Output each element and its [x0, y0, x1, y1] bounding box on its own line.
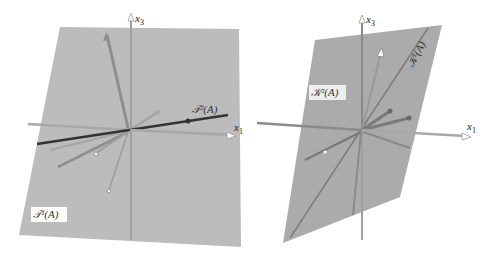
left-3d-diagram: x3 x1 𝒯²(A) 𝒯¹(A) — [0, 0, 245, 258]
line-T2-point — [186, 119, 191, 124]
plane-K2-label: 𝒦²(A) — [311, 86, 339, 99]
x1-arrowhead — [462, 133, 471, 140]
x3-arrowhead — [359, 15, 365, 23]
x3-axis-label: x3 — [134, 12, 144, 27]
vector-tip — [388, 109, 393, 114]
x3-arrowhead — [128, 13, 134, 21]
vector-tip — [156, 110, 160, 114]
vector-tip-2 — [407, 116, 412, 121]
left-diagram-svg: x3 x1 𝒯²(A) 𝒯¹(A) — [0, 0, 245, 258]
plane-T1-label: 𝒯¹(A) — [33, 208, 59, 221]
right-3d-diagram: x3 x1 𝒦²(A) 𝒦¹(A) — [245, 0, 490, 258]
x3-axis-label: x3 — [365, 13, 375, 28]
vector-tip-3 — [107, 189, 111, 193]
vector-tip-2 — [94, 152, 98, 156]
vector-tip-3 — [324, 151, 327, 154]
right-diagram-svg: x3 x1 𝒦²(A) 𝒦¹(A) — [245, 0, 490, 258]
x1-axis-label: x1 — [466, 120, 476, 135]
line-T2-label: 𝒯²(A) — [192, 103, 218, 116]
